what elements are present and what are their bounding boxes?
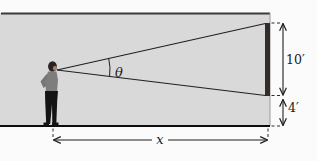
person-face [53, 66, 57, 71]
room-rectangle [0, 13, 270, 126]
distance-x-label: x [156, 132, 164, 147]
viewing-angle-diagram: θ 10′ 4′ x [0, 0, 317, 161]
angle-theta-label: θ [115, 65, 123, 80]
screen-bar [265, 23, 270, 96]
figure-canvas: θ 10′ 4′ x [0, 0, 317, 161]
screen-height-label: 10′ [286, 52, 305, 67]
person-foot-left [44, 123, 50, 126]
person-foot-right [52, 123, 59, 126]
dimension-distance: x [54, 132, 268, 147]
dimension-floor-offset: 4′ [283, 100, 299, 126]
dimension-screen-height: 10′ [283, 24, 305, 96]
floor-offset-label: 4′ [288, 100, 299, 115]
